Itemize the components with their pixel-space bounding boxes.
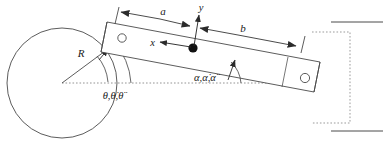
label-radius: R <box>77 47 85 59</box>
label-dim-b: b <box>240 22 246 34</box>
label-axis-y: y <box>198 2 204 13</box>
dim-a-left-arrow <box>121 12 160 19</box>
slider-pin-hole <box>300 73 309 82</box>
mechanism-diagram: R θ,θ̇,θ̈ α,α̇,α̈ a b x y <box>0 0 383 149</box>
dim-a-left-tick <box>115 7 119 24</box>
dim-a-right-arrow <box>160 19 190 26</box>
center-of-mass-dot <box>188 43 197 52</box>
label-dim-a: a <box>160 5 166 17</box>
dim-b-right-arrow <box>238 35 296 46</box>
label-crank-angle: θ,θ̇,θ̈ <box>103 90 128 101</box>
label-axis-x: x <box>149 37 155 48</box>
crank-pin-hole <box>118 34 126 42</box>
dim-b-left-arrow <box>200 28 238 35</box>
dim-b-right-tick <box>301 36 305 53</box>
radius-angle-arc <box>97 56 108 82</box>
slider-travel-path <box>312 32 350 123</box>
